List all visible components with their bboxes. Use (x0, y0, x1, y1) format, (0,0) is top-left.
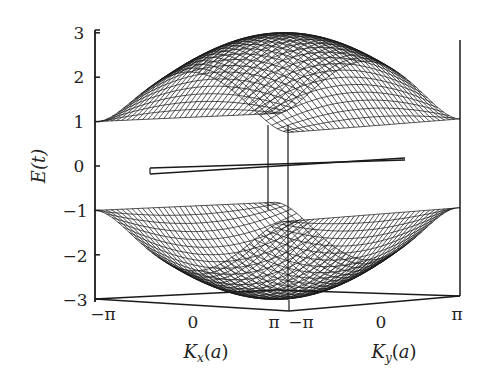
kx-tick-pi: π (268, 312, 279, 332)
band-structure-surface-plot (0, 0, 487, 387)
z-tick-2: 2 (74, 67, 85, 87)
mesh-line (283, 116, 454, 131)
base-edge-front-right (289, 296, 460, 311)
ky-tick-0: 0 (376, 312, 387, 332)
base-edge-front-left (95, 299, 289, 311)
kx-tick-neg-pi: −π (90, 304, 115, 324)
energy-axis-label: E(t) (28, 149, 49, 183)
kx-tick-0: 0 (188, 312, 199, 332)
z-tick-1: 1 (74, 112, 85, 132)
ky-tick-pi: π (451, 304, 462, 324)
z-tick-neg1: −1 (62, 201, 87, 221)
ky-label-main: K (371, 341, 384, 362)
z-tick-neg2: −2 (62, 246, 87, 266)
z-tick-neg3: −3 (62, 290, 87, 310)
z-tick-3: 3 (74, 23, 85, 43)
kx-label-tail: a) (211, 341, 229, 362)
mesh-line (275, 61, 460, 119)
kx-axis-label: Kx(a) (183, 341, 228, 366)
ky-label-tail: a) (399, 341, 417, 362)
kx-label-main: K (183, 341, 196, 362)
z-tick-0: 0 (74, 156, 85, 176)
ky-axis-label: Ky(a) (371, 341, 416, 366)
mesh-line (238, 58, 411, 95)
ky-tick-neg-pi: −π (288, 312, 313, 332)
